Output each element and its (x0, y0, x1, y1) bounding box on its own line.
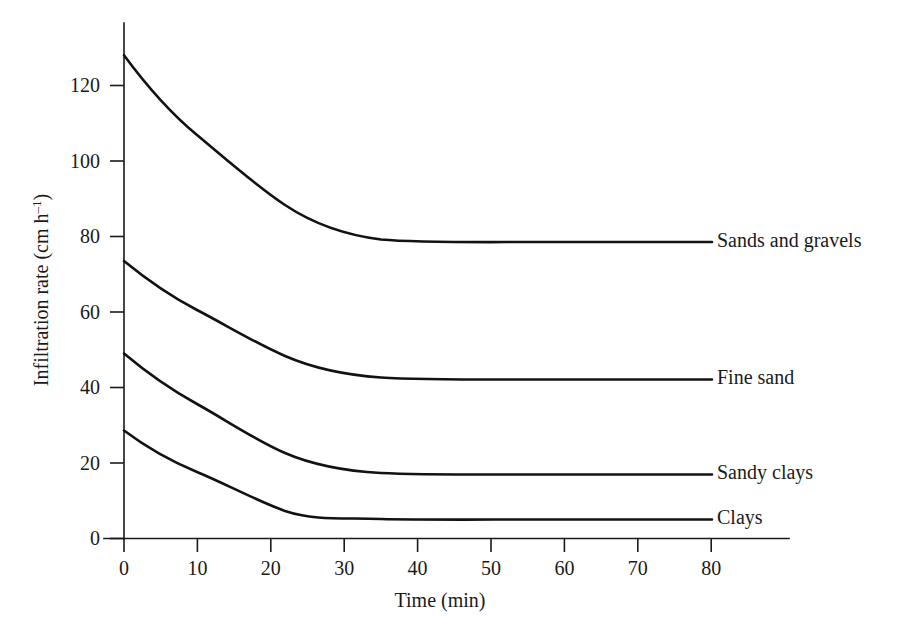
chart-figure: 0 20 40 60 80 100 120 0 10 20 30 40 (0, 0, 909, 630)
series-curve-fine-sand (124, 261, 712, 380)
x-tick-label-0: 0 (119, 557, 129, 579)
y-tick-label-120: 120 (70, 74, 100, 96)
y-tick-label-0: 0 (90, 527, 100, 549)
series-curve-sandy-clays (124, 354, 712, 475)
infiltration-rate-line-chart: 0 20 40 60 80 100 120 0 10 20 30 40 (0, 0, 909, 630)
y-tick-label-60: 60 (80, 301, 100, 323)
series-label-fine-sand: Fine sand (717, 366, 794, 388)
y-axis-ticks (110, 86, 124, 539)
x-tick-label-80: 80 (701, 557, 721, 579)
x-axis-title: Time (min) (395, 589, 486, 612)
x-axis-ticks (124, 539, 711, 553)
x-tick-label-60: 60 (554, 557, 574, 579)
svg-text:Infiltration rate (cm h–1): Infiltration rate (cm h–1) (29, 194, 53, 386)
y-tick-label-80: 80 (80, 225, 100, 247)
y-tick-label-40: 40 (80, 376, 100, 398)
x-tick-label-70: 70 (628, 557, 648, 579)
y-axis-title-main: Infiltration rate (cm h (30, 213, 53, 386)
series-label-clays: Clays (717, 506, 763, 529)
series-label-sands-and-gravels: Sands and gravels (717, 229, 862, 252)
y-axis-title: Infiltration rate (cm h–1) (29, 194, 53, 386)
series-curve-sands-and-gravels (124, 55, 712, 242)
x-tick-label-20: 20 (261, 557, 281, 579)
y-tick-label-100: 100 (70, 150, 100, 172)
series-label-sandy-clays: Sandy clays (717, 461, 813, 484)
x-tick-label-30: 30 (334, 557, 354, 579)
y-axis-title-close: ) (30, 194, 53, 201)
y-axis-title-exponent: –1 (29, 200, 44, 214)
x-tick-label-50: 50 (481, 557, 501, 579)
x-tick-label-10: 10 (187, 557, 207, 579)
x-tick-label-40: 40 (408, 557, 428, 579)
y-axis-tick-labels: 0 20 40 60 80 100 120 (70, 74, 100, 549)
x-axis-tick-labels: 0 10 20 30 40 50 60 70 80 (119, 557, 721, 579)
y-tick-label-20: 20 (80, 452, 100, 474)
